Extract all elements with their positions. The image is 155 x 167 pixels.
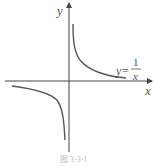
svg-text:y=: y=	[115, 64, 129, 78]
figure-caption: 图 3-3-1	[60, 155, 87, 164]
svg-text:x: x	[132, 70, 138, 82]
y-axis-label: y	[55, 3, 63, 18]
function-label: y= 1 x	[115, 56, 141, 82]
curve-branch-negative	[12, 86, 65, 140]
hyperbola-diagram: y x y= 1 x 图 3-3-1	[0, 0, 155, 167]
svg-text:1: 1	[133, 56, 139, 68]
x-axis-label: x	[144, 83, 151, 98]
